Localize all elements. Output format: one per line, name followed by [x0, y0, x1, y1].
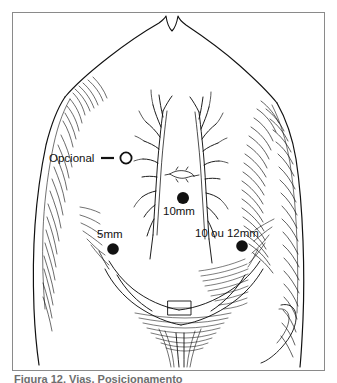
optional-port-marker[interactable]: [120, 152, 131, 163]
umbilical-port-marker[interactable]: [177, 192, 189, 204]
left-port-label: 5mm: [97, 228, 123, 240]
right-port-label: 10 ou 12mm: [195, 227, 259, 239]
right-port-marker[interactable]: [236, 240, 248, 252]
optional-label: Opcional: [49, 152, 94, 164]
figure-caption: Figura 12. Vias. Posicionamento: [14, 374, 334, 383]
umbilical-port-label: 10mm: [163, 205, 195, 217]
figure-frame: Opcional 10mm 5mm 10 ou 12mm: [12, 12, 325, 371]
abdomen-illustration: Opcional 10mm 5mm 10 ou 12mm: [13, 13, 326, 372]
left-port-marker[interactable]: [107, 243, 119, 255]
